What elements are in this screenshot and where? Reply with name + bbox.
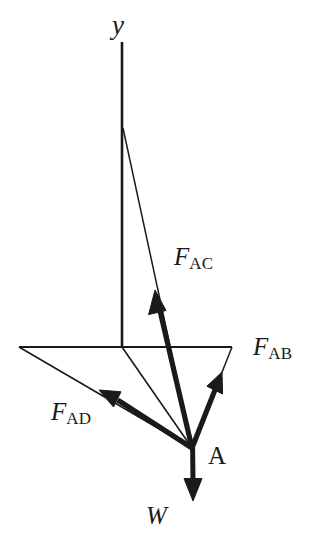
- weight-arrowhead: [184, 479, 202, 502]
- force-ab-symbol: F: [253, 333, 268, 360]
- force-ac-arrowhead: [149, 290, 166, 315]
- force-ad-label: FAD: [51, 399, 91, 424]
- force-ad-symbol: F: [51, 398, 66, 425]
- axis-y-label: y: [112, 12, 124, 39]
- weight-label: W: [146, 503, 167, 528]
- force-ab-subscript: AB: [268, 344, 292, 363]
- force-ad-subscript: AD: [66, 409, 91, 428]
- force-ab-shaft: [192, 389, 215, 448]
- force-diagram-figure: y FAC FAB FAD A W: [0, 0, 309, 548]
- force-ab-label: FAB: [253, 334, 292, 359]
- point-a-label: A: [208, 443, 226, 468]
- diagram-canvas: [0, 0, 309, 548]
- force-ac-label: FAC: [174, 244, 213, 269]
- force-ac-subscript: AC: [189, 254, 213, 273]
- force-ac-symbol: F: [174, 243, 189, 270]
